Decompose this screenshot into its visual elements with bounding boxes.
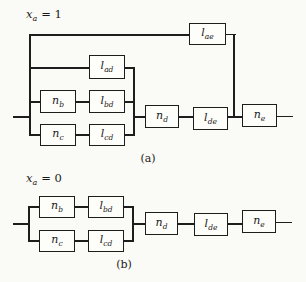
block-nc-a: nc xyxy=(40,124,76,146)
caption-a: (a) xyxy=(136,153,160,164)
symbol-sub: c xyxy=(58,239,62,248)
case-sub: a xyxy=(33,178,38,187)
case-rhs: = 1 xyxy=(41,7,62,21)
block-nb-b: nb xyxy=(39,196,75,218)
wire-left-bus-a xyxy=(29,34,31,136)
case-label-b: xa= 0 xyxy=(26,173,62,187)
symbol-sub: ad xyxy=(104,65,113,74)
wire-left-bus-b xyxy=(28,206,30,242)
wire-nc-lcd-b xyxy=(75,240,88,242)
block-lbd-b: lbd xyxy=(88,196,124,218)
wire-nc-left xyxy=(29,134,40,136)
block-lae-label: lae xyxy=(201,27,213,41)
symbol-sub: d xyxy=(163,115,168,124)
block-lcd-label: lcd xyxy=(100,234,113,248)
wire-nc-lcd xyxy=(76,134,89,136)
block-ne-label: ne xyxy=(254,109,266,123)
symbol-sub: b xyxy=(58,205,63,214)
symbol-main: n xyxy=(156,216,163,229)
block-lde-a: lde xyxy=(193,107,228,130)
wire-lde-ne-b xyxy=(228,223,242,225)
block-lcd-a: lcd xyxy=(89,124,125,146)
block-nc-b: nc xyxy=(39,230,75,252)
symbol-sub: de xyxy=(208,117,217,126)
block-nd-label: nd xyxy=(156,217,168,231)
wire-nd-lde-b xyxy=(178,223,194,225)
case-label-a: xa= 1 xyxy=(26,9,62,23)
block-lad: lad xyxy=(89,55,125,79)
block-lcd-label: lcd xyxy=(101,128,114,142)
symbol-sub: e xyxy=(260,220,264,229)
wire-entry-b xyxy=(13,223,29,225)
symbol-sub: de xyxy=(208,223,217,232)
block-lcd-b: lcd xyxy=(88,230,124,252)
block-lbd-a: lbd xyxy=(89,90,125,113)
block-lde-b: lde xyxy=(194,213,228,236)
symbol-sub: ae xyxy=(205,32,214,41)
block-nd-b: nd xyxy=(145,212,178,235)
block-lbd-label: lbd xyxy=(100,95,113,109)
block-nd-a: nd xyxy=(145,105,179,128)
case-rhs: = 0 xyxy=(41,171,62,185)
wire-lae-down xyxy=(233,34,235,118)
symbol-sub: bd xyxy=(103,205,113,214)
wire-nb-left-b xyxy=(28,206,39,208)
symbol-sub: e xyxy=(261,114,265,123)
wire-lae-left xyxy=(29,34,189,36)
symbol-sub: d xyxy=(163,222,168,231)
block-ne-label: ne xyxy=(253,215,265,229)
block-lde-label: lde xyxy=(204,112,217,126)
wire-merge-nd-b xyxy=(132,223,145,225)
caption-b: (b) xyxy=(112,259,136,270)
symbol-main: n xyxy=(254,108,261,121)
wire-exit-b xyxy=(276,222,292,224)
wire-nc-left-b xyxy=(28,240,39,242)
symbol-sub: bd xyxy=(104,100,114,109)
block-lde-label: lde xyxy=(205,218,218,232)
block-nb-label: nb xyxy=(52,95,64,109)
symbol-sub: b xyxy=(59,100,64,109)
wire-lad-left xyxy=(29,67,89,69)
block-nb-label: nb xyxy=(51,200,63,214)
figure: xa= 1 lae lad nb lbd nc lcd nd lde n xyxy=(0,0,306,282)
wire-nb-lbd-b xyxy=(75,206,88,208)
symbol-sub: c xyxy=(59,133,63,142)
block-nd-label: nd xyxy=(156,110,168,124)
block-lad-label: lad xyxy=(101,60,114,74)
wire-nb-lbd xyxy=(76,101,89,103)
block-nb-a: nb xyxy=(40,90,76,113)
wire-merge-bus-a xyxy=(133,67,135,136)
case-sub: a xyxy=(33,14,38,23)
symbol-sub: cd xyxy=(103,239,112,248)
wire-entry-a xyxy=(13,116,30,118)
wire-nd-lde-a xyxy=(179,116,193,118)
block-nc-label: nc xyxy=(52,128,63,142)
wire-lde-ne-a xyxy=(228,116,242,118)
wire-nb-left xyxy=(29,101,40,103)
block-ne-b: ne xyxy=(242,210,276,233)
symbol-sub: cd xyxy=(104,133,113,142)
block-ne-a: ne xyxy=(242,104,277,127)
block-nc-label: nc xyxy=(51,234,62,248)
block-lbd-label: lbd xyxy=(99,200,112,214)
wire-exit-a xyxy=(277,116,293,118)
wire-merge-nd-a xyxy=(133,116,145,118)
block-lae: lae xyxy=(189,23,226,45)
